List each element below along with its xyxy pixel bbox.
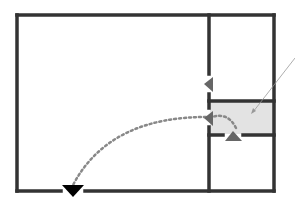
exit-triangle-down-icon xyxy=(62,185,84,197)
floor-plan-diagram xyxy=(0,0,295,213)
highlighted-room xyxy=(210,102,273,134)
door-middle-triangle-left-icon xyxy=(204,111,213,126)
door-upper-triangle-left-icon xyxy=(204,77,213,92)
